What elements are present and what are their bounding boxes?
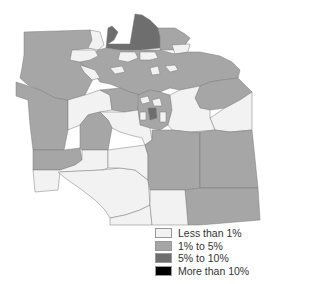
legend-swatch — [155, 253, 172, 263]
region-5to10 — [106, 14, 160, 50]
legend-item-more-than-10: More than 10% — [155, 265, 249, 278]
legend-swatch — [155, 241, 172, 251]
legend-swatch — [155, 228, 172, 238]
legend-label: More than 10% — [178, 265, 249, 277]
region — [140, 52, 158, 60]
legend-label: 5% to 10% — [178, 252, 229, 264]
legend-label: Less than 1% — [178, 227, 242, 239]
region — [185, 188, 260, 225]
region — [145, 130, 200, 190]
region — [200, 130, 258, 188]
region — [150, 190, 188, 225]
legend-swatch — [155, 266, 172, 276]
region — [140, 112, 146, 120]
legend-label: 1% to 5% — [178, 240, 223, 252]
legend-item-less-than-1: Less than 1% — [155, 227, 249, 240]
region — [58, 168, 150, 218]
legend-item-1-to-5: 1% to 5% — [155, 240, 249, 253]
map-legend: Less than 1% 1% to 5% 5% to 10% More tha… — [155, 227, 249, 277]
region — [160, 112, 166, 122]
legend-item-5-to-10: 5% to 10% — [155, 252, 249, 265]
